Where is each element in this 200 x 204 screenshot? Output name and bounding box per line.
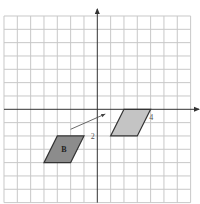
axes <box>4 8 200 203</box>
label-2: 2 <box>91 132 95 141</box>
label-4: 4 <box>149 113 153 122</box>
x-axis-arrowhead-icon <box>194 107 200 112</box>
arrow-shaft <box>71 114 106 129</box>
translation-arrow <box>71 114 106 129</box>
shape-image <box>111 109 151 136</box>
coordinate-grid-diagram: B 24 <box>0 0 200 204</box>
shape-b-label: B <box>61 145 67 154</box>
y-axis-arrowhead-icon <box>95 8 100 14</box>
